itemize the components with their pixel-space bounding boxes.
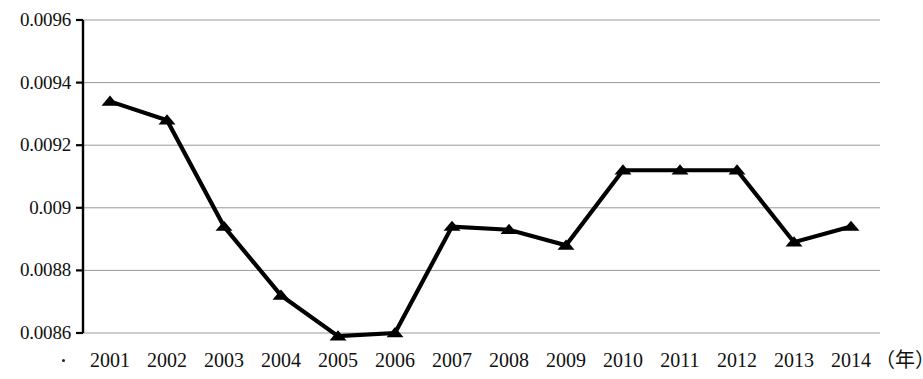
- y-axis-tick-label: 0.0096: [0, 10, 71, 29]
- data-point-marker: [843, 221, 860, 231]
- gridlines-group: [83, 20, 880, 333]
- chart-canvas: [0, 0, 923, 379]
- y-axis-tick-label: 0.0086: [0, 323, 71, 342]
- y-axis-tick-label: 0.0092: [0, 135, 71, 154]
- data-point-marker: [102, 95, 119, 105]
- stray-dot-artifact: [62, 359, 65, 362]
- y-axis-tick-label: 0.0094: [0, 73, 71, 92]
- y-axis-tick-label: 0.0088: [0, 260, 71, 279]
- series-line: [110, 101, 851, 336]
- x-axis-unit-label: （年）: [875, 350, 923, 370]
- y-axis-tick-label: 0.009: [0, 198, 71, 217]
- data-point-marker: [216, 221, 233, 231]
- y-axis-group: [76, 20, 83, 333]
- data-series-group: [102, 95, 860, 340]
- line-chart: 0.00960.00940.00920.0090.00880.0086 2001…: [0, 0, 923, 379]
